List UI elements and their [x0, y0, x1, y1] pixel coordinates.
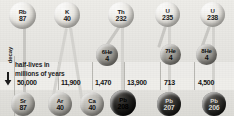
isotope-node-u-235[interactable]: U 235 — [155, 2, 180, 27]
isotope-node-pb-206[interactable]: Pb 206 — [202, 92, 226, 116]
isotope-mass: 235 — [162, 14, 173, 21]
isotope-mass: 238 — [207, 14, 218, 21]
down-arrow-icon — [4, 72, 12, 86]
isotope-mass: 40 — [63, 15, 70, 22]
band-divider — [160, 62, 161, 90]
half-life-value: 1,470 — [95, 79, 111, 86]
isotope-mass: 87 — [19, 104, 26, 111]
legend-line-2: millions of years — [15, 70, 65, 79]
isotope-mass: 40 — [56, 104, 63, 111]
isotope-mass: 232 — [116, 15, 127, 22]
byproduct-mass: 4 — [205, 54, 209, 61]
band-divider — [124, 62, 125, 90]
half-life-value: 11,900 — [61, 79, 80, 86]
isotope-node-k-40[interactable]: K 40 — [54, 2, 80, 28]
isotope-mass: 206 — [209, 104, 220, 111]
isotope-node-th-232[interactable]: Th 232 — [108, 2, 134, 28]
half-life-value: 13,900 — [127, 79, 147, 86]
isotope-node-sr-87[interactable]: Sr 87 — [11, 92, 35, 116]
half-life-value: 4,500 — [198, 79, 214, 86]
byproduct-node-6he-4[interactable]: 6He 4 — [96, 44, 118, 66]
half-life-value: 713 — [164, 79, 175, 86]
isotope-node-pb-207[interactable]: Pb 207 — [157, 92, 181, 116]
isotope-mass: 87 — [19, 15, 26, 22]
band-divider — [92, 62, 93, 90]
isotope-node-rb-87[interactable]: Rb 87 — [9, 2, 36, 29]
isotope-node-pb-208[interactable]: Pb 208 — [110, 90, 136, 116]
decay-chain-diagram: Rb 87 K 40 Th 232 U 235 U 238 6He 4 7He … — [0, 0, 234, 116]
half-life-value: 50,000 — [17, 79, 37, 86]
isotope-node-u-238[interactable]: U 238 — [200, 2, 225, 27]
legend-line-1: half-lives in — [15, 61, 65, 70]
byproduct-node-8he-4[interactable]: 8He 4 — [196, 44, 217, 65]
isotope-mass: 40 — [88, 104, 95, 111]
isotope-mass: 207 — [164, 104, 175, 111]
decay-axis-label: decay — [7, 38, 13, 72]
byproduct-node-7he-4[interactable]: 7He 4 — [160, 44, 181, 65]
isotope-node-ca-40[interactable]: Ca 40 — [80, 92, 104, 116]
half-life-legend: half-lives in millions of years — [15, 61, 65, 78]
isotope-node-ar-40[interactable]: Ar 40 — [48, 92, 72, 116]
decay-stem-th232-pb208 — [121, 26, 124, 96]
band-divider — [194, 62, 195, 90]
isotope-mass: 208 — [118, 103, 129, 110]
byproduct-mass: 4 — [105, 55, 109, 62]
byproduct-mass: 4 — [169, 54, 173, 61]
